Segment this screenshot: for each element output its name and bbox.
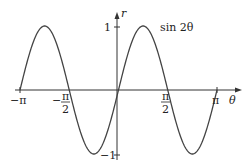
x-tick-label-neg-half-pi-den: 2 xyxy=(62,103,69,116)
x-axis-label: θ xyxy=(229,94,236,107)
x-axis-arrow-icon xyxy=(235,88,242,93)
chart: sin 2θ r θ 1 −1 −π π − π 2 π 2 xyxy=(0,0,243,168)
y-axis-label: r xyxy=(121,7,127,20)
x-tick-label-neg-pi: −π xyxy=(10,94,26,107)
y-tick-label-neg1: −1 xyxy=(100,149,116,162)
y-axis-arrow-icon xyxy=(115,12,120,19)
y-tick-label-1: 1 xyxy=(104,21,111,34)
curve-label: sin 2θ xyxy=(160,21,194,34)
x-tick-label-neg-half-pi-num: π xyxy=(62,90,69,103)
x-tick-label-half-pi-num: π xyxy=(162,90,169,103)
x-tick-label-neg-half-pi-minus: − xyxy=(52,94,61,107)
x-tick-label-half-pi-den: 2 xyxy=(162,103,169,116)
x-tick-label-pi: π xyxy=(212,94,219,107)
